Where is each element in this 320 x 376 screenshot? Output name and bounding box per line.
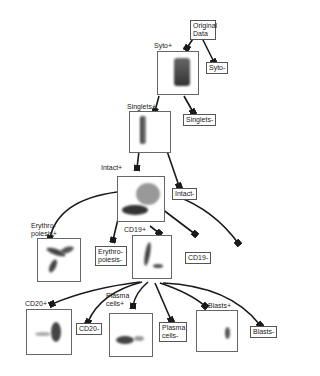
density-erythro-c — [59, 245, 74, 255]
label-cd20-pos: CD20+ — [25, 300, 47, 308]
node-original-data[interactable]: Original Data — [190, 20, 216, 40]
node-cd20-neg[interactable]: CD20- — [76, 323, 102, 335]
density-plasma — [116, 336, 134, 344]
node-intact-neg[interactable]: Intact- — [172, 188, 197, 200]
density-intact-lower — [122, 205, 148, 215]
label-syto-pos: Syto+ — [154, 42, 172, 50]
label-blasts-pos: Blasts+ — [208, 302, 231, 310]
node-erythropoiesis-neg[interactable]: Erythro-poiesis- — [95, 246, 127, 266]
node-blasts-neg[interactable]: Blasts- — [250, 326, 277, 338]
plot-cd20[interactable] — [26, 309, 72, 355]
density-cd19-horizontal — [153, 264, 163, 268]
label-cd19-pos: CD19+ — [124, 226, 146, 234]
label-erythropoiesis-pos: Erythro-poiesis+ — [31, 222, 65, 238]
plot-singlets[interactable] — [129, 111, 171, 153]
density-cd20 — [51, 322, 61, 342]
density-intact-upper — [136, 183, 160, 205]
density-cd20-scatter — [35, 332, 51, 336]
plot-syto[interactable] — [157, 51, 199, 95]
plot-cd19[interactable] — [132, 235, 172, 279]
plot-blasts[interactable] — [196, 310, 238, 352]
density-syto — [174, 58, 190, 86]
density-erythro-b — [47, 258, 58, 273]
density-singlets — [140, 116, 146, 144]
label-singlets-pos: Singlets+ — [127, 103, 156, 111]
density-plasma-scatter — [134, 336, 144, 341]
density-blasts — [225, 327, 230, 339]
node-singlets-neg[interactable]: Singlets- — [183, 114, 216, 126]
density-cd19-vertical — [143, 242, 152, 267]
node-cd19-neg[interactable]: CD19- — [185, 252, 211, 264]
label-plasma-pos: Plasma cells+ — [106, 292, 134, 308]
plot-plasma[interactable] — [109, 313, 153, 357]
node-syto-neg[interactable]: Syto- — [206, 62, 228, 74]
label-intact-pos: Intact+ — [101, 164, 122, 172]
node-plasma-neg[interactable]: Plasma cells- — [159, 322, 187, 342]
plot-intact[interactable] — [117, 176, 165, 222]
plot-erythropoiesis[interactable] — [37, 238, 81, 282]
